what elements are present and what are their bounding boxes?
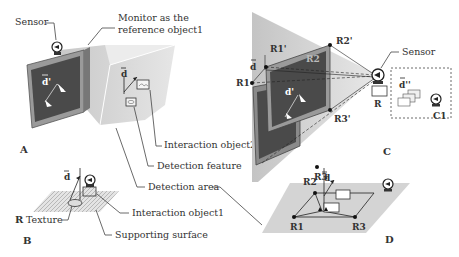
label-r2-d: R2 <box>303 177 317 187</box>
vector-d: d <box>121 69 128 79</box>
label-supporting-surface: Supporting surface <box>115 229 208 240</box>
label-r: R <box>15 214 24 225</box>
detection-feature-object <box>126 98 136 106</box>
label-r3-prime: R3' <box>334 114 351 124</box>
label-detection-area: Detection area <box>148 181 220 192</box>
interaction-object <box>336 190 350 199</box>
panel-d: d R2 R1 R3 D <box>262 168 410 245</box>
panel-label-a: A <box>19 144 28 155</box>
label-texture: Texture <box>26 214 63 225</box>
label-interaction-object2: Interaction object2 <box>164 139 256 150</box>
panel-label-c: C <box>383 146 391 157</box>
label-interaction-object1: Interaction object1 <box>132 207 224 218</box>
texture-object <box>68 200 82 207</box>
label-sensor-c: Sensor <box>402 46 436 57</box>
label-r2-prime: R2' <box>336 36 353 46</box>
label-r3-d: R3 <box>352 222 366 232</box>
label-detection-feature: Detection feature <box>157 160 242 171</box>
label-r-c: R <box>374 99 382 109</box>
panel-label-b: B <box>23 235 31 246</box>
label-r1-prime: R1' <box>270 44 287 54</box>
vector-d: d <box>324 173 331 183</box>
panel-c: d' d R1 R1' R2' R2 R3' R3 R <box>236 12 451 182</box>
label-sensor-a: Sensor <box>15 16 49 27</box>
label-monitor-line1: Monitor as the <box>118 12 189 23</box>
vector-d-prime: d' <box>285 87 294 97</box>
label-r1: R1 <box>236 78 250 88</box>
panel-label-d: D <box>385 234 394 245</box>
reference-object <box>372 86 387 96</box>
interaction-object1 <box>83 187 96 196</box>
vector-d-prime: d' <box>42 77 51 87</box>
vector-d: d <box>250 62 257 72</box>
interaction-diagram: d' d A Sensor Monitor as the reference o… <box>0 0 459 257</box>
label-r2: R2 <box>306 54 320 64</box>
diagram-canvas: d' d A Sensor Monitor as the reference o… <box>0 0 459 257</box>
label-c1: C1 <box>433 111 446 121</box>
label-r1-d: R1 <box>290 222 304 232</box>
label-monitor-line2: reference object1 <box>118 24 203 35</box>
vector-d: d <box>64 172 71 182</box>
panel-a: d' d A <box>19 42 175 155</box>
vector-d-double-prime: d'' <box>399 80 411 90</box>
